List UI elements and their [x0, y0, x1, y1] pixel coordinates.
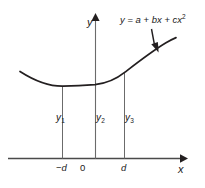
ordinate-label-y1: y1 — [56, 113, 65, 123]
ordinate-label-y1-sub: 1 — [61, 117, 65, 124]
equation-term-c: cx — [173, 14, 183, 25]
equation-exponent: 2 — [182, 13, 186, 20]
equation-term-b: bx — [152, 14, 162, 25]
equation-plus-1: + — [141, 14, 152, 25]
x-axis-arrowhead — [180, 154, 188, 163]
equation-equals: = — [125, 14, 136, 25]
x-tick-label-pos-d: d — [121, 163, 126, 173]
ordinate-label-y3-sub: 3 — [130, 117, 134, 124]
ordinate-label-y3: y3 — [125, 113, 134, 123]
figure-container: y x y = a + bx + cx2 −d 0 d y1 y2 y3 — [0, 0, 205, 188]
x-tick-label-neg-d: −d — [56, 163, 67, 173]
plot-canvas — [0, 0, 205, 188]
x-tick-label-zero: 0 — [80, 163, 85, 173]
y-axis-label: y — [87, 17, 93, 28]
equation-plus-2: + — [162, 14, 173, 25]
ordinate-label-y2-sub: 2 — [101, 117, 105, 124]
x-axis-label: x — [178, 164, 184, 175]
x-axis-group — [8, 154, 188, 163]
ordinate-label-y2: y2 — [96, 113, 105, 123]
equation-label: y = a + bx + cx2 — [120, 15, 186, 25]
